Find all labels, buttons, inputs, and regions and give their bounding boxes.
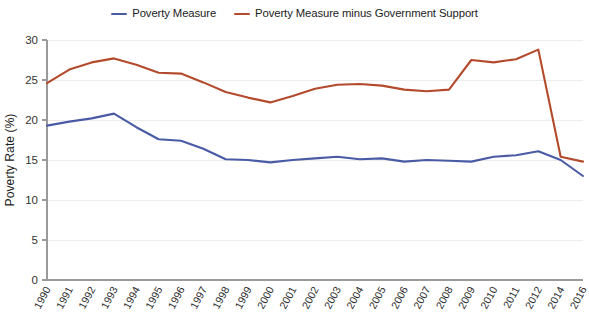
x-tick-label: 2002 — [299, 284, 321, 311]
x-tick-label: 1991 — [53, 284, 75, 311]
x-tick-label: 1990 — [31, 284, 53, 311]
x-tick-label: 2003 — [321, 284, 343, 311]
x-tick-label: 2009 — [455, 284, 477, 311]
series-line-1 — [47, 50, 583, 162]
series-group — [47, 50, 583, 176]
gridlines-group — [47, 40, 583, 280]
x-tick-label: 2006 — [388, 284, 410, 311]
y-tick-label: 10 — [25, 194, 38, 206]
y-tick-label: 0 — [32, 274, 38, 286]
x-tick-label: 1993 — [98, 284, 120, 311]
x-tick-label: 1995 — [143, 284, 165, 311]
x-tick-label: 2004 — [344, 284, 366, 311]
y-tick-label: 5 — [32, 234, 38, 246]
plot-area: 051015202530 199019911992199319941995199… — [0, 0, 589, 313]
x-axis-ticks-group: 1990199119921993199419951996199719981999… — [31, 284, 589, 311]
x-tick-label: 2016 — [567, 284, 589, 311]
x-tick-label: 2001 — [277, 284, 299, 311]
x-tick-label: 1999 — [232, 284, 254, 311]
x-tick-label: 2008 — [433, 284, 455, 311]
x-tick-label: 1996 — [165, 284, 187, 311]
y-tick-label: 20 — [25, 114, 38, 126]
x-tick-label: 2014 — [545, 284, 567, 311]
x-tick-label: 2005 — [366, 284, 388, 311]
series-line-0 — [47, 114, 583, 176]
x-tick-label: 1992 — [76, 284, 98, 311]
y-axis-ticks-group: 051015202530 — [25, 34, 47, 286]
x-tick-label: 2012 — [522, 284, 544, 311]
x-tick-label: 2011 — [500, 284, 521, 310]
y-tick-label: 25 — [25, 74, 38, 86]
y-tick-label: 30 — [25, 34, 38, 46]
x-tick-label: 2007 — [411, 284, 433, 311]
y-axis-title: Poverty Rate (%) — [3, 114, 17, 207]
x-tick-label: 1998 — [210, 284, 232, 311]
y-tick-label: 15 — [25, 154, 38, 166]
x-tick-label: 2000 — [254, 284, 276, 311]
x-tick-label: 1997 — [187, 284, 209, 311]
x-tick-label: 2010 — [478, 284, 500, 311]
poverty-rate-line-chart: Poverty Measure Poverty Measure minus Go… — [0, 0, 589, 313]
x-tick-label: 1994 — [120, 284, 142, 311]
